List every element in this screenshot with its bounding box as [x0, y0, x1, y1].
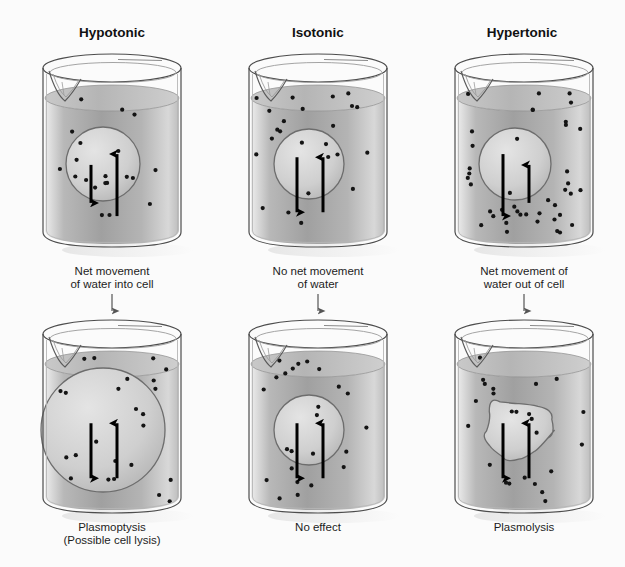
solute-dot: [69, 476, 73, 480]
solute-dot: [106, 478, 110, 482]
caption-line-2: (Possible cell lysis): [63, 534, 160, 546]
panel-isotonic-bottom: [249, 320, 400, 523]
solute-dot: [290, 466, 294, 470]
solute-dot: [469, 182, 473, 186]
solute-dot: [295, 480, 299, 484]
solute-dot: [342, 465, 346, 469]
solute-dot: [466, 176, 470, 180]
solute-dot: [566, 181, 570, 185]
solute-dot: [553, 203, 557, 207]
solute-dot: [152, 378, 156, 382]
solute-dot: [75, 158, 79, 162]
solute-dot: [64, 391, 68, 395]
solute-dot: [565, 169, 569, 173]
solute-dot: [518, 213, 522, 217]
solute-dot: [508, 191, 512, 195]
solute-dot: [346, 91, 350, 95]
solute-dot: [286, 210, 290, 214]
solute-dot: [262, 387, 266, 391]
solute-dot: [488, 209, 492, 213]
solution-surface: [457, 85, 591, 111]
solute-dot: [164, 367, 168, 371]
solute-dot: [524, 212, 528, 216]
solute-dot: [153, 387, 157, 391]
solute-dot: [169, 478, 173, 482]
solute-dot: [510, 409, 514, 413]
solute-dot: [151, 356, 155, 360]
solute-dot: [301, 107, 305, 111]
beaker-shadow: [62, 243, 194, 257]
panel-isotonic-top: [249, 54, 400, 257]
solute-dot: [515, 209, 519, 213]
caption-line-1: Plasmolysis: [494, 521, 555, 533]
osmosis-diagram: Hypotonic Isotonic Hypertonic Net moveme…: [0, 0, 625, 567]
solution-surface: [45, 85, 179, 111]
solute-dot: [578, 127, 582, 131]
solute-dot: [93, 186, 97, 190]
beaker-shadow: [268, 243, 400, 257]
solute-dot: [555, 229, 559, 233]
solute-dot: [153, 168, 157, 172]
solute-dot: [491, 387, 495, 391]
solute-dot: [491, 214, 495, 218]
solute-dot: [346, 391, 350, 395]
solute-dot: [474, 399, 478, 403]
panel-hypotonic-bottom: [41, 320, 194, 523]
solute-dot: [351, 187, 355, 191]
solute-dot: [274, 375, 278, 379]
solute-dot: [534, 382, 538, 386]
solute-dot: [316, 405, 320, 409]
solute-dot: [331, 94, 335, 98]
solute-dot: [533, 482, 537, 486]
solute-dot: [291, 367, 295, 371]
solute-dot: [564, 120, 568, 124]
solute-dot: [481, 378, 485, 382]
solute-dot: [543, 499, 547, 503]
panel-hypertonic-bottom: [455, 320, 606, 523]
caption-line-1: Plasmoptysis: [78, 521, 146, 533]
solute-dot: [129, 463, 133, 467]
cell-membrane: [274, 395, 344, 465]
solute-dot: [530, 417, 534, 421]
solute-dot: [315, 413, 319, 417]
solution-surface: [251, 85, 385, 111]
solute-dot: [131, 176, 135, 180]
solute-dot: [515, 137, 519, 141]
column-title-hypotonic: Hypotonic: [79, 25, 145, 40]
solute-dot: [300, 141, 304, 145]
solute-dot: [365, 151, 369, 155]
solution-surface: [457, 351, 591, 377]
solute-dot: [355, 105, 359, 109]
solute-dot: [265, 478, 269, 482]
solute-dot: [296, 362, 300, 366]
solute-dot: [116, 387, 120, 391]
solute-dot: [537, 91, 541, 95]
solute-dot: [100, 213, 104, 217]
solute-dot: [324, 142, 328, 146]
solute-dot: [569, 101, 573, 105]
solute-dot: [563, 188, 567, 192]
solute-dot: [555, 377, 559, 381]
panel-hypertonic-top: [455, 54, 606, 257]
cell-membrane: [66, 127, 140, 201]
solute-dot: [335, 152, 339, 156]
solute-dot: [523, 476, 527, 480]
bottom-caption-group-plasmoptysis: Plasmoptysis (Possible cell lysis): [63, 521, 160, 546]
column-title-isotonic: Isotonic: [292, 25, 344, 40]
caption-line-2: of water: [298, 278, 339, 290]
solute-dot: [317, 367, 321, 371]
solute-dot: [74, 453, 78, 457]
solute-dot: [64, 455, 68, 459]
solute-dot: [79, 97, 83, 101]
solute-dot: [157, 493, 161, 497]
solute-dot: [527, 412, 531, 416]
solute-dot: [305, 359, 309, 363]
solute-dot: [350, 104, 354, 108]
solute-dot: [84, 178, 88, 182]
caption-line-2: of water into cell: [70, 278, 153, 290]
solute-dot: [344, 450, 348, 454]
solute-dot: [141, 424, 145, 428]
solute-dot: [471, 144, 475, 148]
solution-surface: [251, 351, 385, 377]
solute-dot: [73, 174, 77, 178]
